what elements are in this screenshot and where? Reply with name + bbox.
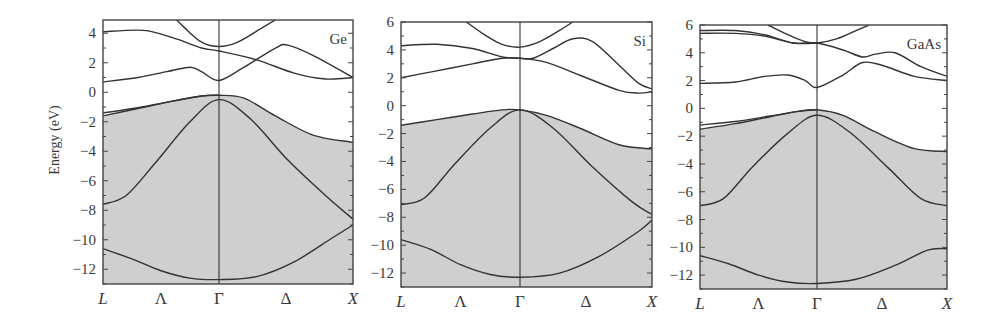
y-tick-label: 4 <box>387 42 395 58</box>
material-label: Ge <box>330 31 348 47</box>
y-tick-label: 0 <box>89 84 97 100</box>
y-tick-label: −2 <box>80 114 96 130</box>
panel-ge: 420−2−4−6−8−10−12LΛΓΔXGe <box>73 16 359 308</box>
y-tick-label: −8 <box>677 212 693 228</box>
y-tick-label: −10 <box>73 232 96 248</box>
band-cond1 <box>401 58 652 94</box>
y-tick-label: −8 <box>378 209 394 225</box>
band-cond1 <box>700 62 947 88</box>
y-tick-label: −4 <box>677 156 693 172</box>
y-tick-label: 4 <box>686 45 694 61</box>
y-tick-label: −6 <box>80 173 96 189</box>
valence-shading <box>401 109 652 287</box>
y-tick-label: 6 <box>686 17 694 33</box>
y-tick-label: −8 <box>80 202 96 218</box>
k-point-label: L <box>694 294 704 313</box>
k-point-label: Γ <box>214 289 224 308</box>
y-tick-label: 0 <box>387 98 395 114</box>
k-point-label: Γ <box>812 294 822 313</box>
material-label: Si <box>633 33 646 49</box>
y-tick-label: 2 <box>89 55 97 71</box>
y-tick-label: 2 <box>686 73 694 89</box>
k-point-label: Λ <box>155 289 168 308</box>
y-tick-label: −10 <box>670 239 693 255</box>
y-tick-label: −12 <box>73 261 96 277</box>
y-tick-label: 6 <box>387 14 395 30</box>
valence-shading <box>103 95 353 284</box>
y-tick-label: 4 <box>89 25 97 41</box>
y-tick-label: −12 <box>371 265 394 281</box>
y-tick-label: 2 <box>387 70 395 86</box>
k-point-label: Λ <box>752 294 765 313</box>
panel-gaas: 6420−2−4−6−8−10−12LΛΓΔXGaAs <box>670 17 953 313</box>
panels-container: 420−2−4−6−8−10−12LΛΓΔXGe6420−2−4−6−8−10−… <box>73 14 953 313</box>
k-point-label: Γ <box>515 292 525 311</box>
material-label: GaAs <box>907 36 941 52</box>
k-point-label: Λ <box>454 292 467 311</box>
y-tick-label: −6 <box>378 181 394 197</box>
k-point-label: L <box>395 292 405 311</box>
k-point-label: L <box>97 289 107 308</box>
band-cond2 <box>103 30 353 79</box>
y-tick-label: −4 <box>80 143 96 159</box>
band-cond1 <box>103 44 353 81</box>
panel-si: 6420−2−4−6−8−10−12LΛΓΔXSi <box>371 14 658 311</box>
y-tick-label: −2 <box>378 126 394 142</box>
k-point-label: Δ <box>281 289 292 308</box>
y-tick-label: −10 <box>371 237 394 253</box>
k-point-label: Δ <box>877 294 888 313</box>
y-tick-label: −6 <box>677 184 693 200</box>
valence-shading <box>700 110 947 289</box>
y-tick-label: −12 <box>670 267 693 283</box>
band-structure-figure: Energy (eV) 420−2−4−6−8−10−12LΛΓΔXGe6420… <box>0 0 988 331</box>
k-point-label: Δ <box>581 292 592 311</box>
y-tick-label: −4 <box>378 153 394 169</box>
y-tick-label: 0 <box>686 100 694 116</box>
band-cond3 <box>700 30 817 43</box>
k-point-label: X <box>347 289 359 308</box>
k-point-label: X <box>941 294 953 313</box>
y-axis-label: Energy (eV) <box>47 105 63 175</box>
y-tick-label: −2 <box>677 128 693 144</box>
k-point-label: X <box>646 292 658 311</box>
